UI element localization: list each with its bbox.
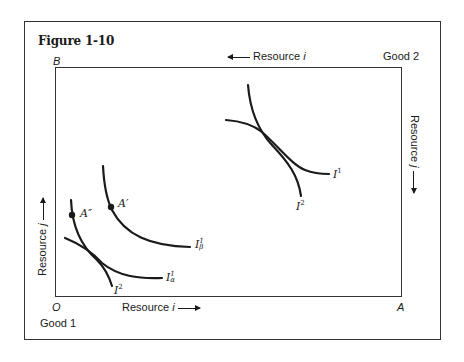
curve-label-lower-i2: I2 [114,284,123,296]
curve-i-beta [103,166,190,247]
point-a-double-prime [69,212,75,218]
curve-label-i-beta: I1β [195,239,204,252]
curve-label-i-alpha: I1α [166,272,175,285]
curve-upper-i1 [226,120,329,174]
curve-label-upper-i1: I1 [333,168,342,180]
curve-label-upper-i2: I2 [296,200,305,212]
curve-upper-i2 [248,85,301,196]
indifference-curves [0,0,464,362]
point-label-a-prime: A′ [118,198,128,209]
curve-i-alpha [65,238,162,278]
point-label-a-double-prime: A″ [80,208,92,219]
point-a-prime [108,204,114,210]
